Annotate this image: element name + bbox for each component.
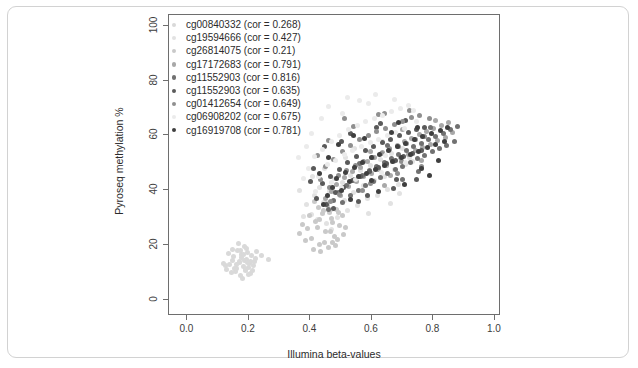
x-axis-tick bbox=[309, 315, 310, 320]
legend-item-label: cg11552903 (cor = 0.635) bbox=[186, 84, 300, 97]
data-point bbox=[392, 122, 397, 127]
data-point bbox=[353, 177, 358, 182]
scatter-plot-figure: 0.00.20.40.60.81.0020406080100 Pyroseq m… bbox=[0, 0, 638, 368]
data-point bbox=[367, 169, 372, 174]
x-axis-tick bbox=[432, 315, 433, 320]
data-point bbox=[433, 134, 438, 139]
data-point bbox=[337, 223, 342, 228]
data-point bbox=[371, 144, 376, 149]
data-point bbox=[433, 118, 438, 123]
data-point bbox=[397, 191, 402, 196]
data-point bbox=[311, 247, 316, 252]
data-point bbox=[316, 205, 321, 210]
data-point bbox=[360, 188, 365, 193]
data-point bbox=[233, 269, 238, 274]
data-point bbox=[242, 244, 247, 249]
data-point bbox=[296, 155, 301, 160]
data-point bbox=[395, 143, 400, 148]
data-point bbox=[343, 170, 348, 175]
data-point bbox=[410, 159, 415, 164]
data-point bbox=[333, 190, 338, 195]
data-point bbox=[368, 149, 373, 154]
data-point bbox=[223, 263, 228, 268]
data-point bbox=[336, 190, 341, 195]
data-point bbox=[382, 183, 387, 188]
data-point bbox=[328, 174, 333, 179]
data-point bbox=[337, 192, 342, 197]
data-point bbox=[379, 151, 384, 156]
data-point bbox=[389, 130, 394, 135]
data-point bbox=[441, 131, 446, 136]
data-point bbox=[317, 185, 322, 190]
data-point bbox=[317, 217, 322, 222]
y-axis-tick-label: 60 bbox=[147, 121, 161, 147]
data-point bbox=[320, 147, 325, 152]
data-point bbox=[320, 211, 325, 216]
data-point bbox=[315, 153, 320, 158]
legend-item: cg06908202 (cor = 0.675) bbox=[172, 110, 382, 123]
data-point bbox=[401, 154, 406, 159]
data-point bbox=[411, 144, 416, 149]
data-point bbox=[368, 181, 373, 186]
data-point bbox=[419, 141, 424, 146]
data-point bbox=[393, 167, 398, 172]
data-point bbox=[236, 241, 241, 246]
data-point bbox=[340, 149, 345, 154]
legend-item: cg00840332 (cor = 0.268) bbox=[172, 18, 382, 31]
data-point bbox=[230, 247, 235, 252]
data-point bbox=[341, 232, 346, 237]
data-point bbox=[376, 167, 381, 172]
data-point bbox=[385, 171, 390, 176]
legend-item-label: cg01412654 (cor = 0.649) bbox=[186, 97, 301, 110]
y-axis-tick bbox=[163, 80, 168, 81]
data-point bbox=[239, 252, 244, 257]
data-point bbox=[400, 127, 405, 132]
data-point bbox=[235, 248, 240, 253]
data-point bbox=[411, 108, 416, 113]
data-point bbox=[412, 137, 417, 142]
data-point bbox=[369, 155, 374, 160]
data-point bbox=[301, 214, 306, 219]
data-point bbox=[350, 169, 355, 174]
data-point bbox=[335, 215, 340, 220]
data-point bbox=[325, 203, 330, 208]
data-point bbox=[382, 160, 387, 165]
data-point bbox=[389, 156, 394, 161]
data-point bbox=[394, 177, 399, 182]
data-point bbox=[326, 207, 331, 212]
data-point bbox=[241, 264, 246, 269]
data-point bbox=[448, 127, 453, 132]
data-point bbox=[333, 243, 338, 248]
data-point bbox=[326, 155, 331, 160]
data-point bbox=[378, 175, 383, 180]
data-point bbox=[375, 193, 380, 198]
data-point bbox=[410, 151, 415, 156]
data-point bbox=[363, 148, 368, 153]
data-point bbox=[304, 144, 309, 149]
data-point bbox=[239, 255, 244, 260]
data-point bbox=[347, 179, 352, 184]
data-point bbox=[443, 135, 448, 140]
x-axis-tick-label: 0.6 bbox=[351, 323, 391, 334]
data-point bbox=[420, 134, 425, 139]
legend-marker-icon bbox=[172, 89, 176, 93]
legend-marker-icon bbox=[172, 75, 176, 79]
data-point bbox=[339, 139, 344, 144]
data-point bbox=[253, 256, 258, 261]
data-point bbox=[359, 144, 364, 149]
data-point bbox=[419, 148, 424, 153]
legend-item-label: cg06908202 (cor = 0.675) bbox=[186, 110, 301, 123]
data-point bbox=[329, 139, 334, 144]
legend-item: cg11552903 (cor = 0.635) bbox=[172, 84, 382, 97]
data-point bbox=[406, 130, 411, 135]
data-point bbox=[332, 176, 337, 181]
data-point bbox=[422, 125, 427, 130]
data-point bbox=[389, 151, 394, 156]
data-point bbox=[245, 260, 250, 265]
data-point bbox=[304, 202, 309, 207]
data-point bbox=[306, 166, 311, 171]
data-point bbox=[342, 152, 347, 157]
data-point bbox=[300, 222, 305, 227]
data-point bbox=[333, 158, 338, 163]
data-point bbox=[231, 254, 236, 259]
